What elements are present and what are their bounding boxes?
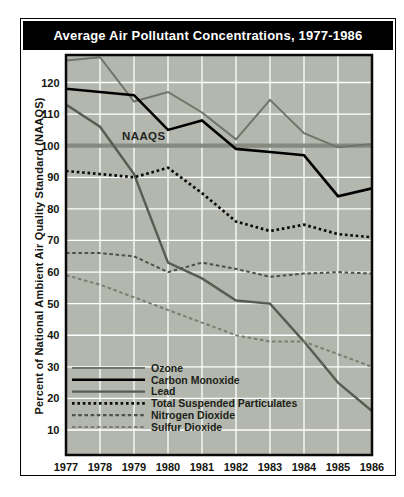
y-tick-label: 30 — [47, 361, 59, 373]
x-tick-label: 1978 — [88, 461, 112, 473]
y-tick-label: 80 — [47, 203, 59, 215]
legend-label-ozone: Ozone — [151, 362, 183, 374]
line-chart: NAAQS10203040506070809010011012019771978… — [0, 0, 404, 497]
x-tick-label: 1982 — [224, 461, 248, 473]
legend-label-total-suspended-particulates: Total Suspended Particulates — [151, 397, 297, 409]
x-tick-label: 1985 — [326, 461, 350, 473]
naaqs-line-label: NAAQS — [122, 130, 166, 142]
x-tick-label: 1986 — [360, 461, 384, 473]
y-tick-label: 50 — [47, 298, 59, 310]
y-tick-label: 70 — [47, 234, 59, 246]
x-tick-label: 1977 — [54, 461, 78, 473]
legend-label-carbon-monoxide: Carbon Monoxide — [151, 374, 240, 386]
y-tick-label: 90 — [47, 171, 59, 183]
y-tick-label: 120 — [41, 77, 59, 89]
legend-label-nitrogen-dioxide: Nitrogen Dioxide — [151, 409, 235, 421]
y-tick-label: 100 — [41, 140, 59, 152]
y-tick-label: 40 — [47, 329, 59, 341]
x-tick-label: 1983 — [258, 461, 282, 473]
x-tick-label: 1984 — [292, 461, 317, 473]
x-tick-label: 1980 — [156, 461, 180, 473]
y-tick-label: 20 — [47, 392, 59, 404]
x-tick-label: 1981 — [190, 461, 214, 473]
legend-label-sulfur-dioxide: Sulfur Dioxide — [151, 421, 222, 433]
y-tick-label: 60 — [47, 266, 59, 278]
x-tick-label: 1979 — [122, 461, 146, 473]
legend-label-lead: Lead — [151, 385, 176, 397]
y-tick-label: 10 — [47, 424, 59, 436]
y-tick-label: 110 — [42, 108, 60, 120]
